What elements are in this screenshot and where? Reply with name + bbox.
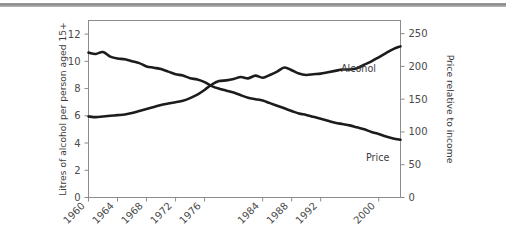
right-tick-label: 50 — [409, 159, 422, 170]
left-tick-label: 8 — [74, 83, 80, 94]
x-tick-label: 1976 — [177, 200, 203, 226]
series-label-price: Price — [366, 152, 390, 163]
left-tick-label: 10 — [68, 56, 81, 67]
y2-axis-title: Price relative to income — [445, 55, 456, 164]
x-tick-label: 1984 — [235, 200, 261, 226]
x-tick-label: 1992 — [293, 200, 319, 226]
x-tick-label: 1988 — [264, 200, 290, 226]
x-axis-tick-labels: 196019641968197219761984198819922000 — [61, 200, 377, 226]
plot-frame — [89, 21, 401, 198]
series-line-alcohol — [89, 46, 401, 117]
x-axis-ticks — [89, 198, 379, 202]
right-tick-label: 100 — [409, 126, 428, 137]
right-tick-label: 0 — [409, 192, 415, 203]
right-tick-label: 200 — [409, 61, 428, 72]
left-axis-tick-labels: 024681012 — [68, 29, 81, 203]
chart-svg: 024681012 050100150200250 19601964196819… — [0, 0, 506, 229]
chart-figure: 024681012 050100150200250 19601964196819… — [0, 0, 506, 229]
series-label-alcohol: Alcohol — [341, 63, 376, 74]
x-tick-label: 2000 — [351, 200, 377, 226]
right-axis-ticks — [401, 34, 405, 198]
right-axis-tick-labels: 050100150200250 — [409, 28, 428, 203]
x-tick-label: 1960 — [61, 200, 87, 226]
left-tick-label: 6 — [74, 110, 80, 121]
left-tick-label: 12 — [68, 29, 81, 40]
left-tick-label: 4 — [74, 138, 80, 149]
right-tick-label: 150 — [409, 94, 428, 105]
x-tick-label: 1968 — [119, 200, 145, 226]
right-tick-label: 250 — [409, 28, 428, 39]
left-tick-label: 2 — [74, 165, 80, 176]
x-tick-label: 1964 — [90, 200, 116, 226]
x-tick-label: 1972 — [148, 200, 174, 226]
y-axis-title: Litres of alcohol per person aged 15+ — [57, 22, 68, 196]
